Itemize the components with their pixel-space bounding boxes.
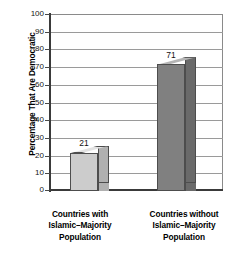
- tick-mark-10: [45, 173, 50, 174]
- category-2-line-2: Islamic–Majority: [124, 220, 244, 231]
- category-label-1: Countries with Islamic–Majority Populati…: [24, 209, 136, 243]
- bar-2-side-bottom: [185, 183, 196, 191]
- bar-chart: Percentage That Are Democratic 100 90 80…: [0, 0, 246, 253]
- gridline-60: [51, 85, 223, 86]
- tick-mark-20: [45, 156, 50, 157]
- tick-mark-50: [45, 103, 50, 104]
- tick-mark-100: [45, 14, 50, 15]
- bar-2-side-face: [185, 57, 196, 183]
- tick-mark-0: [45, 190, 50, 191]
- category-1-line-1: Countries with: [24, 209, 136, 220]
- category-2-line-1: Countries without: [124, 209, 244, 220]
- tick-label-40: 40: [22, 116, 44, 124]
- category-1-line-3: Population: [24, 232, 136, 243]
- bar-2-front-face: [157, 64, 185, 191]
- tick-label-70: 70: [22, 63, 44, 71]
- tick-mark-90: [45, 32, 50, 33]
- tick-label-100: 100: [22, 10, 44, 18]
- tick-mark-40: [45, 120, 50, 121]
- tick-label-0: 0: [22, 186, 44, 194]
- tick-mark-60: [45, 85, 50, 86]
- gridline-90: [51, 32, 223, 33]
- gridline-80: [51, 49, 223, 50]
- bar-1-side-face: [98, 146, 109, 183]
- category-label-2: Countries without Islamic–Majority Popul…: [124, 209, 244, 243]
- tick-label-30: 30: [22, 134, 44, 142]
- bar-1-side-bottom: [98, 183, 109, 191]
- tick-label-10: 10: [22, 169, 44, 177]
- tick-mark-70: [45, 67, 50, 68]
- tick-mark-80: [45, 49, 50, 50]
- tick-label-50: 50: [22, 99, 44, 107]
- tick-label-20: 20: [22, 152, 44, 160]
- bar-1-value-label: 21: [64, 139, 104, 148]
- category-1-line-2: Islamic–Majority: [24, 220, 136, 231]
- gridline-40: [51, 120, 223, 121]
- gridline-50: [51, 103, 223, 104]
- tick-label-90: 90: [22, 28, 44, 36]
- tick-label-80: 80: [22, 45, 44, 53]
- tick-mark-30: [45, 138, 50, 139]
- category-2-line-3: Population: [124, 232, 244, 243]
- bar-2-value-label: 71: [151, 51, 191, 60]
- gridline-70: [51, 67, 223, 68]
- tick-label-60: 60: [22, 81, 44, 89]
- bar-1-front-face: [70, 153, 98, 191]
